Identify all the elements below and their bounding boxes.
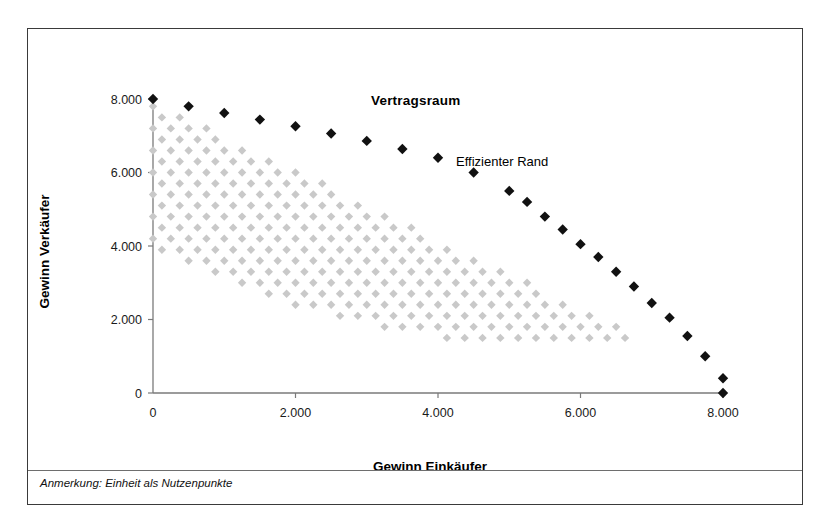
- data-point-marker: [380, 301, 388, 309]
- data-point-marker: [434, 323, 442, 331]
- data-point-marker: [167, 234, 175, 242]
- y-axis-title: Gewinn Verkäufer: [37, 194, 52, 308]
- data-point-marker: [184, 190, 192, 198]
- data-point-marker: [211, 135, 219, 143]
- data-point-marker: [211, 179, 219, 187]
- data-point-marker: [202, 168, 210, 176]
- data-point-marker: [219, 108, 229, 118]
- data-point-marker: [550, 334, 558, 342]
- data-point-marker: [220, 212, 228, 220]
- data-point-marker: [363, 301, 371, 309]
- data-point-marker: [309, 234, 317, 242]
- data-point-marker: [193, 223, 201, 231]
- data-point-marker: [167, 212, 175, 220]
- data-point-marker: [336, 223, 344, 231]
- data-point-marker: [363, 257, 371, 265]
- data-point-marker: [220, 168, 228, 176]
- data-point-marker: [505, 279, 513, 287]
- data-point-marker: [167, 190, 175, 198]
- data-point-marker: [532, 312, 540, 320]
- data-point-marker: [416, 257, 424, 265]
- data-point-marker: [523, 323, 531, 331]
- data-point-marker: [452, 279, 460, 287]
- data-point-marker: [434, 257, 442, 265]
- data-point-marker: [148, 94, 158, 104]
- data-point-marker: [371, 245, 379, 253]
- data-point-marker: [282, 290, 290, 298]
- data-point-marker: [523, 301, 531, 309]
- data-point-marker: [469, 279, 477, 287]
- data-point-marker: [487, 323, 495, 331]
- data-point-marker: [291, 301, 299, 309]
- data-point-marker: [682, 331, 692, 341]
- data-point-marker: [380, 234, 388, 242]
- data-point-marker: [238, 146, 246, 154]
- data-point-marker: [184, 212, 192, 220]
- data-point-marker: [158, 201, 166, 209]
- data-point-marker: [327, 234, 335, 242]
- data-point-marker: [621, 334, 629, 342]
- y-tick-label: 2.000: [111, 313, 142, 327]
- data-point-marker: [247, 268, 255, 276]
- data-point-marker: [149, 190, 157, 198]
- data-point-marker: [336, 201, 344, 209]
- data-point-marker: [469, 301, 477, 309]
- data-point-marker: [238, 257, 246, 265]
- data-point-marker: [478, 268, 486, 276]
- data-point-marker: [496, 334, 504, 342]
- data-point-marker: [407, 312, 415, 320]
- data-point-marker: [443, 334, 451, 342]
- x-axis-ticks: [296, 393, 724, 398]
- data-point-marker: [514, 334, 522, 342]
- data-point-marker: [238, 279, 246, 287]
- data-point-marker: [282, 268, 290, 276]
- data-point-marker: [558, 323, 566, 331]
- data-point-marker: [718, 373, 728, 383]
- data-point-marker: [184, 234, 192, 242]
- data-point-marker: [309, 301, 317, 309]
- data-point-marker: [327, 257, 335, 265]
- data-point-marker: [567, 312, 575, 320]
- data-point-marker: [478, 290, 486, 298]
- data-point-marker: [416, 279, 424, 287]
- data-point-marker: [247, 223, 255, 231]
- data-point-marker: [407, 223, 415, 231]
- data-point-marker: [202, 257, 210, 265]
- data-point-marker: [220, 234, 228, 242]
- data-point-marker: [326, 128, 336, 138]
- data-point-marker: [176, 201, 184, 209]
- data-point-marker: [504, 186, 514, 196]
- data-point-marker: [291, 279, 299, 287]
- data-point-marker: [300, 223, 308, 231]
- data-point-marker: [300, 268, 308, 276]
- data-point-marker: [522, 197, 532, 207]
- data-point-marker: [229, 179, 237, 187]
- data-point-marker: [229, 268, 237, 276]
- data-point-marker: [211, 245, 219, 253]
- data-point-marker: [158, 179, 166, 187]
- data-point-marker: [567, 334, 575, 342]
- data-point-marker: [273, 168, 281, 176]
- data-point-marker: [603, 334, 611, 342]
- data-point-marker: [380, 212, 388, 220]
- data-point-marker: [309, 257, 317, 265]
- data-point-marker: [291, 234, 299, 242]
- data-point-marker: [593, 252, 603, 262]
- data-point-marker: [238, 234, 246, 242]
- data-point-marker: [256, 212, 264, 220]
- data-point-marker: [184, 124, 192, 132]
- data-point-marker: [389, 245, 397, 253]
- data-point-marker: [300, 245, 308, 253]
- data-point-marker: [273, 257, 281, 265]
- data-point-marker: [647, 298, 657, 308]
- data-point-marker: [247, 201, 255, 209]
- data-point-marker: [211, 201, 219, 209]
- data-point-marker: [220, 190, 228, 198]
- data-point-marker: [265, 223, 273, 231]
- data-point-marker: [256, 234, 264, 242]
- y-tick-label: 8.000: [111, 93, 142, 107]
- data-point-marker: [327, 190, 335, 198]
- data-point-marker: [487, 279, 495, 287]
- data-point-marker: [557, 224, 567, 234]
- data-point-marker: [193, 201, 201, 209]
